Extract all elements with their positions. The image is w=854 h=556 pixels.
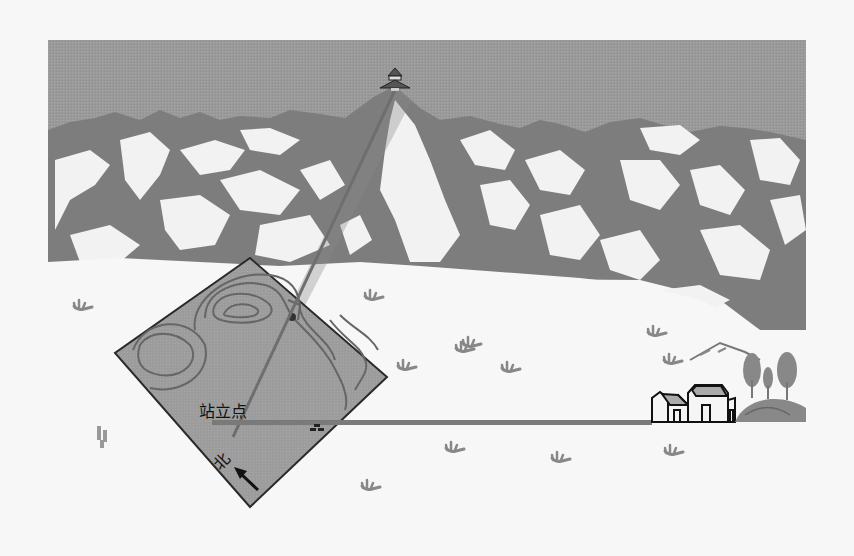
standpoint-label: 站立点 [199, 398, 247, 422]
map-orientation-diagram [0, 0, 854, 556]
road [212, 420, 652, 425]
